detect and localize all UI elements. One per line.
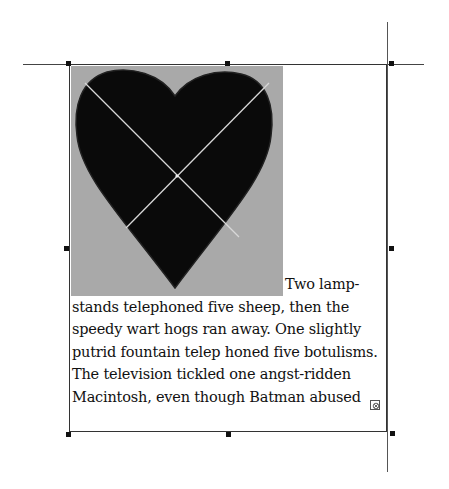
- overflow-icon: [371, 401, 381, 411]
- text-line: The television tickled one angst-ridden: [72, 363, 384, 386]
- handle-bottom-left[interactable]: [66, 432, 71, 437]
- text-line: stands telephoned five sheep, then the: [72, 296, 384, 319]
- heart-icon: [71, 66, 283, 296]
- text-flow[interactable]: Two lamp- stands telephoned five sheep, …: [72, 273, 384, 409]
- text-line: speedy wart hogs ran away. One slightly: [72, 318, 384, 341]
- text-line: Macintosh, even though Batman abused: [72, 386, 384, 409]
- handle-middle-right[interactable]: [389, 246, 394, 251]
- heart-image[interactable]: [71, 66, 283, 296]
- handle-bottom-right[interactable]: [390, 431, 395, 436]
- handle-middle-left[interactable]: [64, 246, 69, 251]
- text-line: Two lamp-: [72, 273, 384, 296]
- vertical-guide[interactable]: [387, 22, 388, 472]
- handle-bottom-center[interactable]: [226, 432, 231, 437]
- overflow-marker[interactable]: [370, 400, 380, 410]
- text-line: putrid fountain telep honed five botulis…: [72, 341, 384, 364]
- handle-top-right[interactable]: [389, 61, 394, 66]
